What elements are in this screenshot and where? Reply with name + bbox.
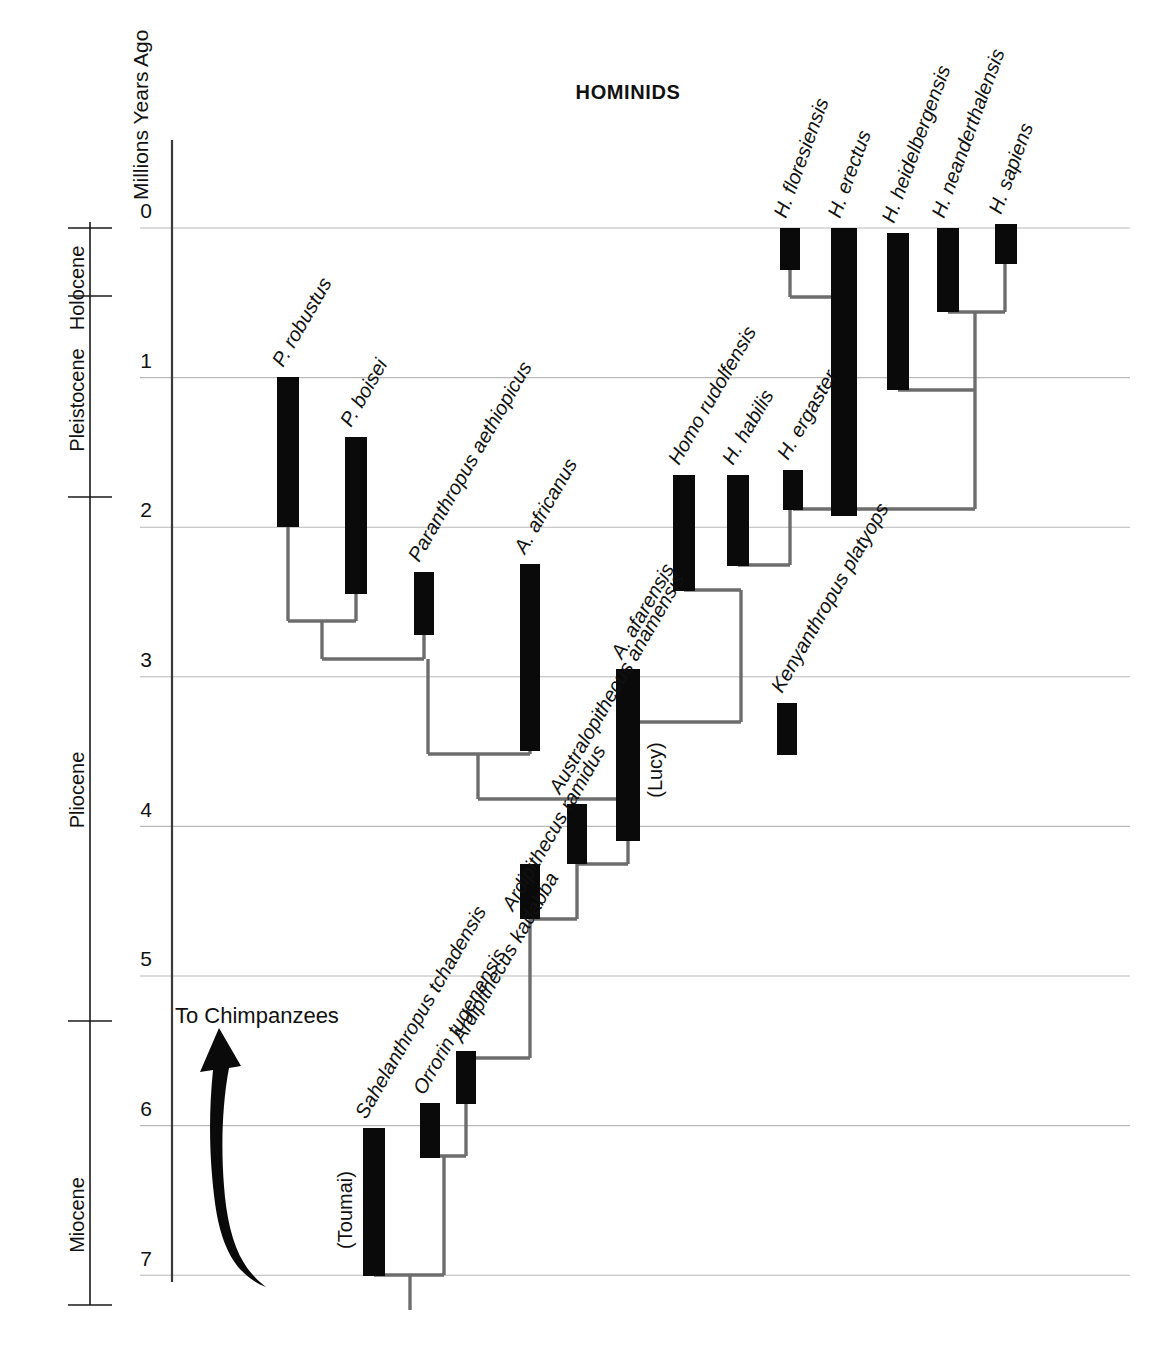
range-bar-h-sapiens bbox=[995, 224, 1017, 264]
range-bar-p-boisei bbox=[345, 437, 367, 594]
range-bar-h-ergaster bbox=[783, 470, 803, 510]
taxon-label-kenyanthropus-platyops: Kenyanthropus platyops bbox=[766, 499, 892, 696]
chart-title: HOMINIDS bbox=[576, 81, 681, 103]
y-axis-title: Millions Years Ago bbox=[129, 30, 152, 200]
annotation-toumai: (Toumai) bbox=[334, 1171, 356, 1249]
taxon-label-a-africanus: A. africanus bbox=[509, 455, 581, 558]
range-bar-h-erectus bbox=[831, 228, 857, 516]
range-bar-kenyanthropus-platyops bbox=[777, 703, 797, 755]
to-chimpanzees-group: To Chimpanzees bbox=[175, 1003, 339, 1287]
y-tick-label: 6 bbox=[140, 1097, 152, 1120]
range-bar-ardipithecus-kadabba bbox=[456, 1051, 476, 1104]
phylogeny-chart-canvas: 0 1 2 3 4 5 6 7 Millions Years Ago Holoc… bbox=[0, 0, 1167, 1347]
range-bar-sahelanthropus-tchadensis bbox=[363, 1128, 385, 1276]
range-bar-orrorin-tugenensis bbox=[420, 1103, 440, 1158]
taxon-label-h-sapiens: H. sapiens bbox=[984, 120, 1037, 216]
range-bar-a-africanus bbox=[520, 564, 540, 751]
taxon-labels: P. robustus P. boisei Paranthropus aethi… bbox=[267, 46, 1037, 1122]
to-chimpanzees-arrow-icon bbox=[200, 1028, 266, 1287]
hominids-phylogeny-figure: 0 1 2 3 4 5 6 7 Millions Years Ago Holoc… bbox=[0, 0, 1167, 1347]
y-tick-label: 1 bbox=[140, 349, 152, 372]
epoch-scale: Holocene Pleistocene Pliocene Miocene bbox=[66, 222, 112, 1305]
epoch-label-holocene: Holocene bbox=[66, 246, 88, 331]
range-bar-h-floresiensis bbox=[780, 228, 800, 270]
y-tick-label: 2 bbox=[140, 498, 152, 521]
range-bar-paranthropus-aethiopicus bbox=[414, 572, 434, 635]
y-tick-label: 0 bbox=[140, 199, 152, 222]
range-bar-h-habilis bbox=[727, 475, 749, 566]
annotation-lucy: (Lucy) bbox=[644, 742, 666, 798]
taxon-label-h-habilis: H. habilis bbox=[717, 386, 777, 468]
y-tick-label: 3 bbox=[140, 648, 152, 671]
taxon-label-h-floresiensis: H. floresiensis bbox=[769, 95, 833, 221]
taxon-label-p-boisei: P. boisei bbox=[335, 354, 391, 430]
range-bar-h-heidelbergensis bbox=[887, 233, 909, 390]
epoch-label-pleistocene: Pleistocene bbox=[66, 348, 88, 451]
y-axis-tick-labels: 0 1 2 3 4 5 6 7 bbox=[140, 199, 152, 1270]
to-chimpanzees-label: To Chimpanzees bbox=[175, 1003, 339, 1028]
range-bar-h-neanderthalensis bbox=[937, 228, 959, 312]
epoch-label-miocene: Miocene bbox=[66, 1177, 88, 1253]
y-tick-label: 4 bbox=[140, 798, 152, 821]
taxon-label-p-robustus: P. robustus bbox=[267, 274, 335, 370]
taxon-label-h-erectus: H. erectus bbox=[823, 127, 875, 220]
epoch-label-pliocene: Pliocene bbox=[66, 752, 88, 829]
y-tick-label: 7 bbox=[140, 1247, 152, 1270]
y-tick-label: 5 bbox=[140, 947, 152, 970]
range-bar-p-robustus bbox=[277, 377, 299, 527]
